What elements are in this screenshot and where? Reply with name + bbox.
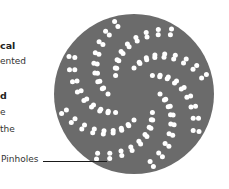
pinhole — [171, 56, 176, 61]
pinhole — [72, 55, 77, 60]
pinhole — [163, 141, 168, 146]
pinhole — [158, 92, 163, 97]
pinhole — [197, 129, 202, 134]
pinhole — [167, 131, 172, 136]
pinhole — [184, 95, 189, 100]
pinhole — [156, 32, 161, 37]
pinhole — [119, 126, 124, 131]
pinhole — [95, 71, 100, 76]
pinhole — [67, 54, 72, 59]
pinhole — [168, 32, 173, 37]
pinhole — [95, 151, 100, 156]
pinhole — [152, 55, 157, 60]
pinhole — [162, 97, 167, 102]
pinhole — [113, 110, 118, 115]
pinhole — [132, 66, 137, 71]
pinhole — [59, 111, 64, 116]
pinhole — [67, 67, 72, 72]
pinhole — [84, 96, 89, 101]
pinhole — [107, 151, 112, 156]
pinhole — [113, 73, 118, 78]
pinhole — [149, 117, 154, 122]
pinhole — [181, 60, 186, 65]
pinhole — [191, 67, 196, 72]
pinhole — [169, 27, 174, 32]
pinhole — [111, 128, 116, 133]
pinhole — [150, 73, 155, 78]
pinhole — [96, 52, 101, 57]
pinhole — [193, 104, 198, 109]
pinhole — [114, 66, 119, 71]
pinhole — [160, 154, 165, 159]
pinhole — [106, 109, 111, 114]
pinhole — [119, 153, 124, 158]
pinhole — [112, 19, 117, 24]
pinhole — [156, 151, 161, 156]
pinhole — [121, 51, 126, 56]
pinhole — [92, 127, 97, 132]
pinhole — [102, 128, 107, 133]
pinhole — [101, 86, 106, 91]
pinhole — [166, 104, 171, 109]
pinhole — [189, 105, 194, 110]
pinhole — [143, 132, 148, 137]
pinholes-callout-label: Pinholes — [1, 154, 38, 164]
pinhole — [64, 108, 69, 113]
pinhole — [69, 120, 74, 125]
pinhole — [135, 39, 140, 44]
pinhole — [145, 35, 150, 40]
pinhole — [106, 92, 111, 97]
pinhole — [191, 128, 196, 133]
pinhole — [147, 125, 152, 130]
pinhole — [82, 123, 87, 128]
pinhole — [191, 116, 196, 121]
pinhole — [97, 79, 102, 84]
pinhole — [116, 58, 121, 63]
pinhole — [107, 156, 112, 161]
pinhole — [107, 33, 112, 38]
pinhole — [199, 75, 204, 80]
pinhole — [194, 63, 199, 68]
pinhole — [172, 81, 177, 86]
pinhole — [144, 57, 149, 62]
pinhole — [179, 87, 184, 92]
pinhole — [91, 103, 96, 108]
pinhole — [127, 44, 132, 49]
pinhole — [126, 122, 131, 127]
pinhole — [132, 118, 137, 123]
pinhole — [137, 61, 142, 66]
pinhole — [162, 55, 167, 60]
pinhole — [73, 116, 78, 121]
pinhole — [156, 27, 161, 32]
pinhole — [98, 107, 103, 112]
pinhole — [151, 164, 156, 169]
pinhole — [115, 24, 120, 29]
pinhole — [204, 72, 209, 77]
pinhole — [119, 149, 124, 154]
pinhole — [128, 144, 133, 149]
pinhole — [136, 139, 141, 144]
pinhole — [100, 42, 105, 47]
pinhole — [70, 79, 75, 84]
pinhole — [79, 88, 84, 93]
pinhole — [168, 122, 173, 127]
pinhole — [196, 116, 201, 121]
pinhole — [157, 74, 162, 79]
pinhole — [168, 112, 173, 117]
pinhole — [144, 30, 149, 35]
pinhole — [150, 110, 155, 115]
pinhole — [103, 29, 108, 34]
pinhole — [95, 62, 100, 67]
pinhole — [75, 79, 80, 84]
pinhole — [72, 67, 77, 72]
pinhole — [148, 159, 153, 164]
pinhole — [165, 76, 170, 81]
pinholes-callout-line — [43, 161, 107, 162]
